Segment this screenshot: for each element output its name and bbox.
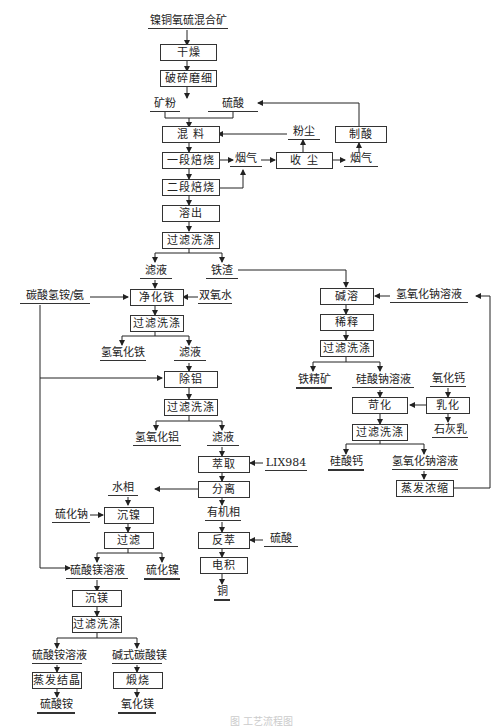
box-filter2: 过滤洗涤 <box>130 315 184 332</box>
label-lix984: LIX984 <box>265 456 307 471</box>
box-dust-collect: 收 尘 <box>276 152 333 169</box>
box-acid-making: 制酸 <box>335 126 387 143</box>
label-copper: 铜 <box>214 585 230 601</box>
label-iron-slag: 铁渣 <box>206 264 238 279</box>
label-mgso4-solution: 硫酸镁溶液 <box>66 564 128 579</box>
box-magnesium-precipitation: 沉镁 <box>72 590 122 607</box>
box-dilution: 稀释 <box>320 314 374 331</box>
label-organic-phase: 有机相 <box>205 506 241 521</box>
label-filtrate-2: 滤液 <box>174 346 206 361</box>
box-purify-iron: 净化铁 <box>130 289 184 306</box>
label-flue-gas-2: 烟气 <box>344 152 378 167</box>
box-filter4: 过滤 <box>104 532 154 549</box>
label-sodium-silicate-solution: 硅酸钠溶液 <box>352 373 414 388</box>
box-emulsification: 乳化 <box>426 397 470 414</box>
label-sulfuric-acid: 硫酸 <box>208 97 258 112</box>
label-calcium-silicate: 硅酸钙 <box>328 455 364 471</box>
box-electrowinning: 电积 <box>200 557 248 574</box>
label-dust: 粉尘 <box>288 125 320 140</box>
label-ore-powder: 矿粉 <box>150 97 180 112</box>
label-calcium-oxide: 氧化钙 <box>430 372 466 387</box>
label-iron-hydroxide: 氢氧化铁 <box>100 346 146 361</box>
label-ammonium-sulfate-solution: 硫酸铵溶液 <box>32 649 82 664</box>
label-flue-gas-1: 烟气 <box>230 152 262 167</box>
label-naoh-solution-2: 氢氧化钠溶液 <box>392 455 458 470</box>
feed-ore-label: 镍铜氧硫混合矿 <box>148 14 228 29</box>
box-roast1: 一段焙烧 <box>162 152 220 169</box>
box-calcination: 煅烧 <box>113 672 163 689</box>
label-aqueous-phase: 水相 <box>108 481 138 496</box>
label-filtrate-1: 滤液 <box>140 264 172 279</box>
label-nickel-sulfide: 硫化镍 <box>144 564 180 580</box>
box-separation: 分离 <box>198 481 250 498</box>
box-remove-aluminum: 除铝 <box>164 371 218 388</box>
box-filter7: 过滤洗涤 <box>352 424 408 441</box>
box-leach: 溶出 <box>162 205 220 222</box>
box-extraction: 萃取 <box>198 456 250 473</box>
label-sodium-sulfide: 硫化钠 <box>52 508 90 523</box>
label-magnesium-oxide: 氧化镁 <box>118 698 156 714</box>
label-basic-magnesium-carbonate: 碱式碳酸镁 <box>112 649 162 664</box>
label-sulfuric-acid-2: 硫酸 <box>264 532 298 547</box>
label-lime-milk: 石灰乳 <box>432 423 468 438</box>
box-filter5: 过滤洗涤 <box>72 616 122 633</box>
box-mix: 混 料 <box>162 126 220 143</box>
box-stripping: 反萃 <box>198 532 250 549</box>
box-evaporation-concentration: 蒸发浓缩 <box>396 480 454 497</box>
box-crush: 破碎磨细 <box>160 70 217 87</box>
box-filter1: 过滤洗涤 <box>162 232 220 249</box>
label-iron-concentrate: 铁精矿 <box>296 373 332 389</box>
label-ammonium-sulfate: 硫酸铵 <box>37 698 75 714</box>
box-alkali-leach: 碱溶 <box>320 288 374 305</box>
box-nickel-precipitation: 沉镍 <box>104 507 154 524</box>
box-filter6: 过滤洗涤 <box>320 340 374 357</box>
box-evaporation-crystallization: 蒸发结晶 <box>32 672 82 689</box>
label-naoh-solution-1: 氢氧化钠溶液 <box>390 288 468 303</box>
box-roast2: 二段焙烧 <box>162 179 220 196</box>
box-dry: 干燥 <box>160 44 217 61</box>
label-aluminum-hydroxide: 氢氧化铝 <box>133 431 181 446</box>
box-causticization: 苛化 <box>352 397 408 414</box>
label-hydrogen-peroxide: 双氧水 <box>198 289 232 304</box>
label-ammonium-bicarbonate: 碳酸氢铵/氨 <box>20 289 90 304</box>
figure-caption: 图 工艺流程图 <box>230 713 293 728</box>
box-filter3: 过滤洗涤 <box>164 399 218 416</box>
label-filtrate-3: 滤液 <box>207 431 239 446</box>
